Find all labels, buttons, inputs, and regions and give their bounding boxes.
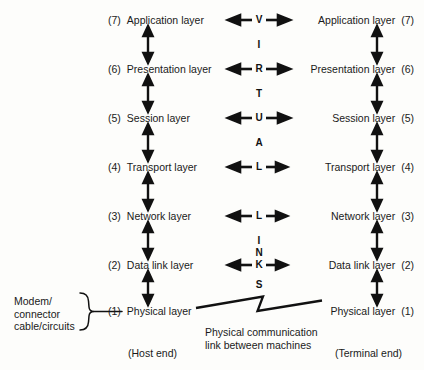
layer-number-right-4: (4) <box>401 161 414 173</box>
host-end-label: (Host end) <box>128 347 177 359</box>
layer-name-left-2: Data link layer <box>127 259 194 271</box>
virtual-link-letter-t4: L <box>252 161 266 172</box>
virtual-link-letter-r: R <box>252 63 266 74</box>
virtual-link-spacer-s: S <box>252 279 266 290</box>
layer-name-right-2: Data link layer <box>329 259 396 271</box>
layer-name-left-1: Physical layer <box>127 305 192 317</box>
layer-row-right-4: Transport layer (4) <box>290 160 414 174</box>
virtual-link-letter-v: V <box>252 14 266 25</box>
layer-number-left-6: (6) <box>108 63 121 75</box>
virtual-link-spacer-i1: I <box>252 39 266 50</box>
layer-number-right-2: (2) <box>401 259 414 271</box>
terminal-end-label: (Terminal end) <box>335 347 402 359</box>
layer-number-right-3: (3) <box>401 210 414 222</box>
osi-layer-diagram: (7) Application layer (6) Presentation l… <box>0 0 424 370</box>
layer-name-left-3: Network layer <box>127 210 191 222</box>
layer-name-right-7: Application layer <box>318 14 395 26</box>
layer-row-right-7: Application layer (7) <box>290 13 414 27</box>
layer-name-left-5: Session layer <box>127 112 190 124</box>
virtual-link-spacer-i2: I <box>252 235 266 246</box>
virtual-link-letter-u: U <box>252 112 266 123</box>
layer-row-left-1: (1) Physical layer <box>108 304 226 318</box>
layer-name-right-6: Presentation layer <box>311 63 396 75</box>
layer-name-left-6: Presentation layer <box>127 63 212 75</box>
layer-number-left-3: (3) <box>108 210 121 222</box>
layer-number-left-7: (7) <box>108 14 121 26</box>
virtual-link-spacer-t: T <box>252 88 266 99</box>
layer-number-right-7: (7) <box>401 14 414 26</box>
layer-row-right-3: Network layer (3) <box>290 209 414 223</box>
layer-row-right-1: Physical layer (1) <box>290 304 414 318</box>
layer-number-left-2: (2) <box>108 259 121 271</box>
layer-number-left-1: (1) <box>108 305 121 317</box>
layer-name-left-7: Application layer <box>127 14 204 26</box>
virtual-link-spacer-n: N <box>252 247 266 258</box>
layer-row-left-6: (6) Presentation layer <box>108 62 226 76</box>
virtual-link-spacer-a: A <box>252 137 266 148</box>
layer-number-right-6: (6) <box>401 63 414 75</box>
layer-row-right-6: Presentation layer (6) <box>290 62 414 76</box>
layer-row-left-4: (4) Transport layer <box>108 160 226 174</box>
layer-name-right-5: Session layer <box>332 112 395 124</box>
layer-number-left-5: (5) <box>108 112 121 124</box>
layer-number-right-1: (1) <box>401 305 414 317</box>
virtual-link-letter-l3: L <box>252 210 266 221</box>
layer-name-right-4: Transport layer <box>325 161 395 173</box>
layer-row-left-7: (7) Application layer <box>108 13 226 27</box>
layer-number-right-5: (5) <box>401 112 414 124</box>
layer-row-right-5: Session layer (5) <box>290 111 414 125</box>
layer-row-left-5: (5) Session layer <box>108 111 226 125</box>
layer-name-right-1: Physical layer <box>330 305 395 317</box>
layer-number-left-4: (4) <box>108 161 121 173</box>
layer-row-left-3: (3) Network layer <box>108 209 226 223</box>
modem-annotation: Modem/ connector cable/circuits <box>14 295 75 333</box>
layer-name-right-3: Network layer <box>331 210 395 222</box>
layer-name-left-4: Transport layer <box>127 161 197 173</box>
layer-row-right-2: Data link layer (2) <box>290 258 414 272</box>
layer-row-left-2: (2) Data link layer <box>108 258 226 272</box>
virtual-link-letter-k: K <box>252 259 266 270</box>
physical-link-annotation: Physical communication link between mach… <box>205 326 318 351</box>
